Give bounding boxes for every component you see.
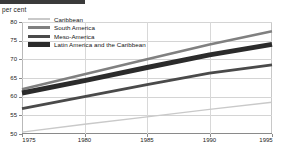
y-axis-unit-label: per cent (2, 6, 26, 13)
legend: Caribbean South America Meso-America Lat… (28, 15, 146, 49)
legend-swatch-icon-south-america (28, 26, 50, 29)
y-tick-label: 80 (0, 19, 17, 25)
x-tick-label: 1995 (259, 137, 272, 143)
x-tick-mark (210, 134, 211, 137)
x-tick-mark (22, 134, 23, 137)
y-tick-label: 65 (0, 75, 17, 81)
x-tick-label: 1975 (22, 137, 35, 143)
legend-label: Latin America and the Caribbean (54, 41, 146, 48)
legend-item-south-america[interactable]: South America (28, 24, 146, 32)
y-tick-mark (19, 97, 22, 98)
legend-swatch-icon-meso-america (28, 35, 50, 38)
y-tick-label: 60 (0, 93, 17, 99)
header-rule (0, 0, 85, 4)
x-tick-label: 1990 (203, 137, 216, 143)
x-tick-label: 1980 (78, 137, 91, 143)
legend-item-meso-america[interactable]: Meso-America (28, 32, 146, 40)
y-tick-mark (19, 41, 22, 42)
legend-label: Caribbean (54, 16, 83, 23)
y-tick-mark (19, 59, 22, 60)
y-tick-mark (19, 22, 22, 23)
y-tick-label: 55 (0, 112, 17, 118)
y-tick-label: 70 (0, 56, 17, 62)
x-tick-mark (272, 134, 273, 137)
y-tick-label: 75 (0, 37, 17, 43)
y-tick-label: 50 (0, 131, 17, 137)
legend-swatch-icon-caribbean (28, 18, 50, 19)
legend-label: South America (54, 24, 95, 31)
figure: per cent 50556065707580 1975198019851990… (0, 0, 282, 151)
x-tick-label: 1985 (140, 137, 153, 143)
legend-item-latin-america-and-the-caribbean[interactable]: Latin America and the Caribbean (28, 41, 146, 49)
y-tick-mark (19, 78, 22, 79)
x-tick-mark (147, 134, 148, 137)
series-line-caribbean (22, 102, 272, 132)
y-tick-mark (19, 115, 22, 116)
x-tick-mark (85, 134, 86, 137)
legend-swatch-icon-latin-america (28, 42, 50, 47)
legend-item-caribbean[interactable]: Caribbean (28, 15, 146, 23)
legend-label: Meso-America (54, 33, 94, 40)
